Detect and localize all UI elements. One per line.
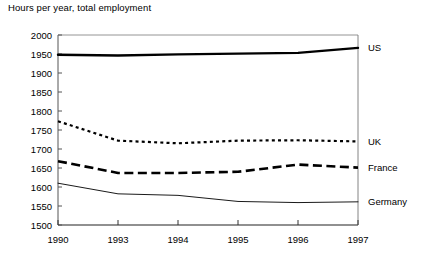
y-tick-label: 1700 — [31, 144, 52, 155]
y-tick-label: 2000 — [31, 30, 52, 41]
y-tick-label: 1500 — [31, 220, 52, 231]
series-label-france: France — [368, 162, 398, 173]
series-line-france — [58, 161, 358, 173]
x-axis-labels: 1990 1993 1994 1995 1996 1997 — [47, 234, 368, 245]
x-tick-label: 1990 — [47, 234, 68, 245]
series-line-uk — [58, 121, 358, 143]
y-axis-ticks — [58, 35, 62, 225]
y-tick-label: 1750 — [31, 125, 52, 136]
y-tick-label: 1950 — [31, 49, 52, 60]
y-tick-label: 1850 — [31, 87, 52, 98]
y-tick-label: 1800 — [31, 106, 52, 117]
series-labels: US UK France Germany — [368, 42, 407, 207]
y-axis-labels: 2000 1950 1900 1850 1800 1750 1700 1650 … — [31, 30, 52, 231]
series-label-uk: UK — [368, 136, 382, 147]
series-lines — [58, 48, 358, 203]
x-axis-ticks — [58, 220, 358, 225]
series-line-germany — [58, 183, 358, 202]
x-tick-label: 1996 — [287, 234, 308, 245]
chart-plot-area: 2000 1950 1900 1850 1800 1750 1700 1650 … — [0, 0, 431, 254]
series-label-germany: Germany — [368, 196, 407, 207]
x-tick-label: 1995 — [227, 234, 248, 245]
y-tick-label: 1600 — [31, 182, 52, 193]
series-line-us — [58, 48, 358, 56]
x-tick-label: 1993 — [107, 234, 128, 245]
y-tick-label: 1550 — [31, 201, 52, 212]
plot-frame — [58, 35, 358, 225]
x-tick-label: 1997 — [347, 234, 368, 245]
series-label-us: US — [368, 42, 381, 53]
y-tick-label: 1650 — [31, 163, 52, 174]
chart-container: Hours per year, total employment 2000 — [0, 0, 431, 254]
y-tick-label: 1900 — [31, 68, 52, 79]
x-tick-label: 1994 — [167, 234, 188, 245]
